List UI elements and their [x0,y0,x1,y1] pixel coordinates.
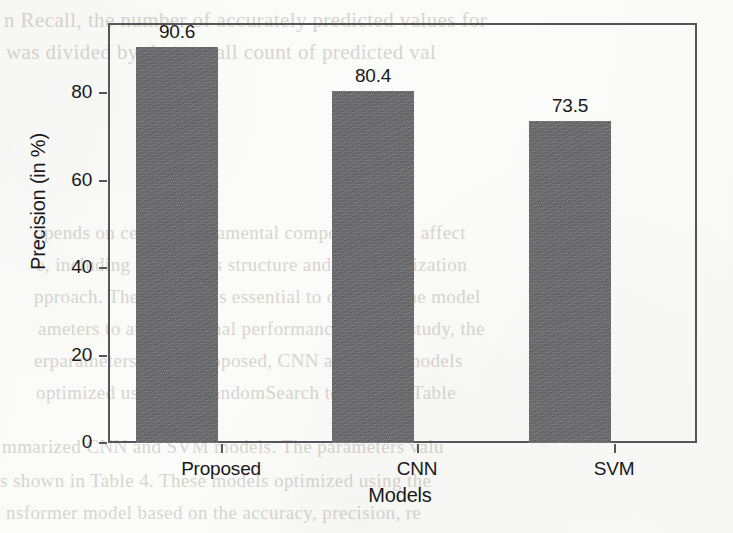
bar-value-label: 90.6 [116,21,238,43]
x-tick-mark [417,444,419,453]
x-tick-mark [221,444,223,453]
y-tick-mark [99,180,107,182]
y-tick-mark [99,267,107,269]
x-tick-label: CNN [337,458,497,480]
x-tick-label: Proposed [141,458,301,480]
y-tick-label: 0 [46,431,92,453]
bar-value-label: 80.4 [312,65,434,87]
y-tick-label: 20 [46,344,92,366]
bar [529,121,611,443]
bar [136,47,218,443]
y-tick-label: 80 [46,81,92,103]
y-tick-mark [99,92,107,94]
y-tick-label: 40 [46,256,92,278]
x-tick-label: SVM [534,458,694,480]
y-tick-mark [99,355,107,357]
y-tick-mark [99,442,107,444]
x-tick-mark [614,444,616,453]
x-axis-title: Models [300,484,500,507]
bar-chart: Precision (in %) 020406080 90.680.473.5 … [0,0,733,533]
bar [332,91,414,443]
bar-value-label: 73.5 [509,95,631,117]
y-tick-label: 60 [46,169,92,191]
